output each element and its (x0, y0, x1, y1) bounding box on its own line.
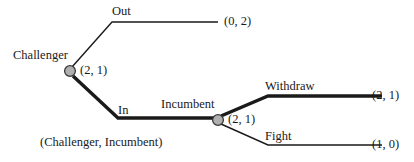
game-tree-figure: Challenger (2, 1) Out (0, 2) In Incumben… (0, 0, 414, 162)
incumbent-player-label: Incumbent (161, 98, 214, 111)
incumbent-node-value: (2, 1) (228, 113, 255, 126)
in-branch-label[interactable]: In (118, 104, 128, 117)
fight-branch-line[interactable] (221, 124, 382, 145)
withdraw-branch-label[interactable]: Withdraw (265, 80, 314, 93)
challenger-node-value: (2, 1) (80, 64, 107, 77)
out-branch-line[interactable] (72, 22, 218, 67)
payoff-order-caption: (Challenger, Incumbent) (40, 136, 162, 149)
out-branch-label[interactable]: Out (112, 5, 131, 18)
incumbent-node-circle[interactable] (213, 115, 224, 126)
withdraw-payoff-label: (2, 1) (372, 89, 399, 102)
fight-payoff-label: (1, 0) (372, 138, 399, 151)
fight-branch-label[interactable]: Fight (265, 130, 291, 143)
out-payoff-label: (0, 2) (224, 15, 251, 28)
challenger-node-circle[interactable] (65, 66, 76, 77)
challenger-player-label: Challenger (13, 49, 68, 62)
